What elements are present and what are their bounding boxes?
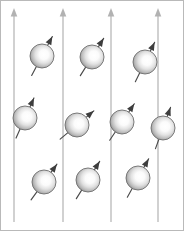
spin-6 [110,104,135,140]
spin-10-sphere [126,166,150,190]
spin-7-sphere [151,116,175,140]
spin-9 [76,161,100,198]
spin-3-arrowhead-icon [148,42,154,51]
spins-group [13,37,175,200]
spin-8-sphere [32,170,56,194]
spin-7-arrowhead-icon [165,107,171,116]
field-line-2 [60,8,67,222]
spin-1 [30,37,54,76]
spin-9-sphere [76,168,100,192]
field-line-arrowhead-icon [60,8,67,17]
spin-8-arrowhead-icon [50,164,57,173]
spin-8 [31,164,57,200]
spin-6-sphere [110,110,134,134]
spin-1-sphere [30,44,54,68]
field-line-4 [155,8,162,222]
spin-6-arrowhead-icon [127,104,134,113]
spin-9-arrowhead-icon [93,161,100,170]
spin-1-arrowhead-icon [46,37,53,46]
spin-4 [13,98,37,138]
spin-2-sphere [80,45,104,69]
spin-10 [126,159,150,197]
spin-2 [80,38,104,75]
spin-3 [133,42,157,82]
spin-7 [151,107,175,148]
spin-10-arrowhead-icon [142,159,149,168]
figure-canvas [0,0,184,231]
field-line-arrowhead-icon [11,8,18,17]
spin-4-arrowhead-icon [28,98,34,107]
spin-3-sphere [133,50,157,74]
field-line-arrowhead-icon [155,8,162,17]
spin-field-figure [0,0,184,231]
spin-5 [60,111,94,139]
field-line-arrowhead-icon [108,8,115,17]
spin-2-arrowhead-icon [97,38,104,47]
spin-4-sphere [13,106,37,130]
spin-5-sphere [65,113,89,137]
